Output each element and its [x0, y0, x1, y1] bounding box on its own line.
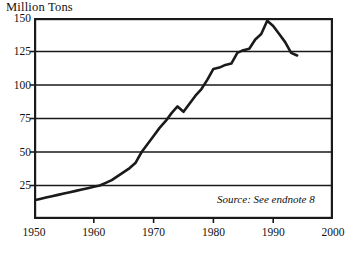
x-tick-label-1980: 1980 — [190, 227, 236, 239]
series-line-0 — [34, 21, 297, 201]
x-tick-label-1950: 1950 — [11, 227, 57, 239]
x-tick-label-2000: 2000 — [310, 227, 356, 239]
x-tick-label-1990: 1990 — [250, 227, 296, 239]
gridlines — [36, 52, 331, 186]
data-series-group — [34, 21, 297, 201]
x-tick-label-1970: 1970 — [131, 227, 177, 239]
source-note: Source: See endnote 8 — [217, 193, 315, 205]
chart-canvas — [34, 18, 333, 219]
chart-figure: Million Tons 255075100125150 19501960197… — [0, 0, 360, 258]
plot-area — [34, 18, 333, 219]
x-tick-label-1960: 1960 — [71, 227, 117, 239]
